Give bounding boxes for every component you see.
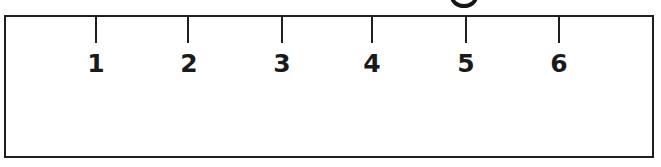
ruler-body: 1 2 3 4 5 6 (4, 15, 654, 158)
ruler-tick-6 (558, 17, 560, 43)
worksheet-ruler-image: 1 2 3 4 5 6 (0, 0, 661, 167)
ruler-label-4: 4 (363, 51, 380, 76)
ruler-label-6: 6 (550, 51, 567, 76)
ruler-tick-3 (281, 17, 283, 43)
ruler-label-5: 5 (457, 51, 474, 76)
ruler-tick-1 (95, 17, 97, 43)
ruler-tick-2 (187, 17, 189, 43)
ruler-tick-5 (465, 17, 467, 43)
ruler-label-3: 3 (273, 51, 290, 76)
ruler-tick-4 (371, 17, 373, 43)
ruler-label-1: 1 (87, 51, 104, 76)
cropped-circle-mark-icon (450, 0, 478, 8)
ruler-label-2: 2 (180, 51, 197, 76)
